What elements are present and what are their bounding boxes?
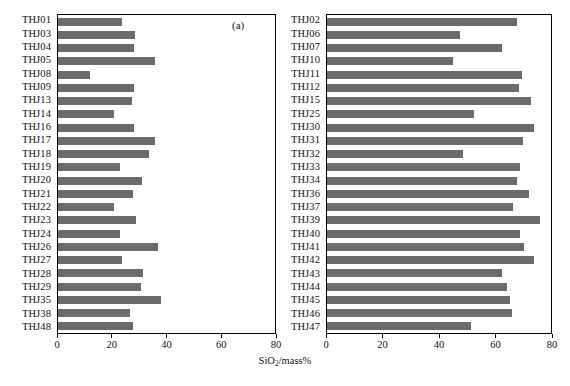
axis-tick-label: 40 [434,339,445,350]
category-label: THJ03 [0,27,54,40]
bar [58,177,142,185]
bar [327,31,460,39]
category-label: THJ24 [0,227,54,240]
bar [327,256,534,264]
category-label: THJ13 [0,94,54,107]
bar [58,31,135,39]
bar-row [58,174,275,187]
x-axis-title: SiO2/mass% [0,355,570,368]
bar [327,137,523,145]
bar [58,309,130,317]
category-label: THJ30 [285,121,323,134]
axis-tick-label: 0 [323,339,328,350]
category-label: THJ42 [285,254,323,267]
category-label: THJ38 [0,307,54,320]
bar-row [327,95,551,108]
bar-row [58,254,275,267]
bar [58,216,136,224]
bar [58,322,133,330]
bar [327,190,529,198]
axis-tick [276,334,277,338]
bar-row [327,55,551,68]
bar-row [58,201,275,214]
axis-tick [382,334,383,338]
bar [327,163,520,171]
category-label: THJ08 [0,67,54,80]
axis-tick-label: 20 [377,339,388,350]
axis-tick [57,334,58,338]
category-label: THJ02 [285,14,323,27]
axis-tick [326,334,327,338]
bar-row [58,42,275,55]
bar [327,18,517,26]
bar [58,296,161,304]
bar [327,110,474,118]
bar [327,296,510,304]
axis-tick [439,334,440,338]
category-label: THJ04 [0,41,54,54]
bar-row [58,55,275,68]
panel-b-bars [327,15,551,333]
axis-tick-label: 80 [271,339,282,350]
category-label: THJ20 [0,174,54,187]
axis-tick [552,334,553,338]
bar [58,243,158,251]
bar-row [327,187,551,200]
axis-tick [166,334,167,338]
bar [327,269,502,277]
category-label: THJ06 [285,27,323,40]
category-label: THJ19 [0,161,54,174]
category-label: THJ29 [0,281,54,294]
bar-row [327,121,551,134]
category-label: THJ09 [0,81,54,94]
bar-row [327,267,551,280]
bar [58,84,134,92]
category-label: THJ31 [285,134,323,147]
axis-tick-label: 60 [490,339,501,350]
bar-row [327,240,551,253]
bar [58,57,155,65]
category-label: THJ35 [0,294,54,307]
panel-b-plot-area [326,14,552,334]
category-label: THJ41 [285,241,323,254]
category-label: THJ45 [285,294,323,307]
panel-a-tag: (a) [232,19,244,31]
axis-tick-label: 20 [107,339,118,350]
bar-row [327,227,551,240]
category-label: THJ32 [285,147,323,160]
axis-tick [495,334,496,338]
category-label: THJ36 [285,187,323,200]
category-label: THJ18 [0,147,54,160]
category-label: THJ16 [0,121,54,134]
category-label: THJ43 [285,267,323,280]
bar [58,256,122,264]
bar [327,216,540,224]
axis-tick [221,334,222,338]
axis-tick-label: 80 [547,339,558,350]
bar-row [327,254,551,267]
bar-row [58,161,275,174]
bar-row [58,148,275,161]
category-label: THJ15 [285,94,323,107]
bar [327,150,463,158]
figure-root: THJ01THJ03THJ04THJ05THJ08THJ09THJ13THJ14… [0,0,570,386]
bar-row [327,108,551,121]
bar [327,44,502,52]
bar [327,309,512,317]
panel-a-bars [58,15,275,333]
axis-tick-label: 60 [216,339,227,350]
bar [58,71,90,79]
bar [58,269,143,277]
category-label: THJ33 [285,161,323,174]
bar-row [58,121,275,134]
category-label: THJ47 [285,321,323,334]
category-label: THJ22 [0,201,54,214]
category-label: THJ44 [285,281,323,294]
bar [327,322,471,330]
bar-row [58,187,275,200]
category-label: THJ25 [285,107,323,120]
bar-row [327,81,551,94]
bar-row [58,280,275,293]
panel-b-category-labels: THJ02THJ06THJ07THJ10THJ11THJ12THJ15THJ25… [285,14,323,334]
category-label: THJ23 [0,214,54,227]
